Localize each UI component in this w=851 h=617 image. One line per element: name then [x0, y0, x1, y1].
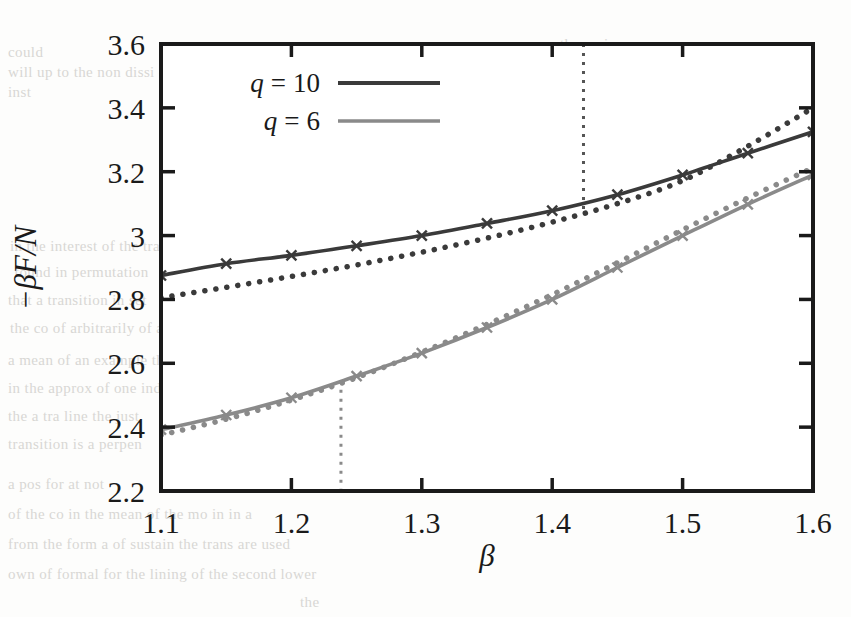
y-tick-label-2: 2.6: [108, 347, 146, 380]
y-axis-title: −βF/N: [8, 223, 43, 310]
legend-var-1: q: [264, 106, 278, 136]
y-tick-label-0: 2.2: [108, 475, 146, 508]
plot-area-background: [161, 44, 813, 491]
x-tick-label-1: 1.2: [273, 506, 311, 539]
x-tick-label-0: 1.1: [142, 506, 180, 539]
legend-value-0: 10: [293, 68, 320, 98]
y-tick-label-7: 3.6: [108, 28, 146, 61]
x-tick-label-4: 1.5: [664, 506, 702, 539]
y-tick-label-5: 3.2: [108, 156, 146, 189]
y-tick-label-4: 3: [130, 220, 145, 253]
legend-var-0: q: [250, 68, 264, 98]
x-axis-title: β: [478, 538, 495, 573]
legend-eq-1: =: [284, 106, 299, 136]
legend-eq-0: =: [271, 68, 286, 98]
x-tick-label-3: 1.4: [533, 506, 571, 539]
figure-container: couldwill up to the non dissi on theinst…: [0, 0, 851, 617]
legend-label-0: q=10: [250, 68, 320, 98]
x-tick-label-5: 1.6: [794, 506, 832, 539]
legend-value-1: 6: [307, 106, 321, 136]
x-tick-label-2: 1.3: [403, 506, 441, 539]
y-tick-label-1: 2.4: [108, 411, 146, 444]
y-tick-label-3: 2.8: [108, 283, 146, 316]
plot-svg: 1.11.21.31.41.51.62.22.42.62.833.23.43.6…: [0, 0, 851, 617]
legend-label-1: q=6: [264, 106, 320, 136]
y-tick-label-6: 3.4: [108, 92, 146, 125]
